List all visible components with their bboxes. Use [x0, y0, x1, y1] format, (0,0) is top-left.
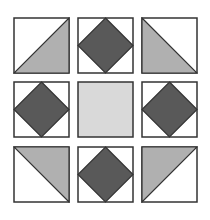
tile-diamond: [77, 146, 134, 203]
tile-half-triangle: [141, 146, 198, 203]
triangle-tile-icon: [141, 17, 198, 74]
diamond-tile-icon: [13, 81, 70, 138]
tile-diamond: [141, 81, 198, 138]
diamond-tile-icon: [77, 17, 134, 74]
tile-diamond: [13, 81, 70, 138]
diamond-tile-icon: [141, 81, 198, 138]
triangle-tile-icon: [13, 17, 70, 74]
triangle-tile-icon: [141, 146, 198, 203]
diamond-tile-icon: [77, 146, 134, 203]
triangle-tile-icon: [13, 146, 70, 203]
tile-half-triangle: [13, 146, 70, 203]
tile-diamond: [77, 17, 134, 74]
tile-half-triangle: [13, 17, 70, 74]
tile-half-triangle: [141, 17, 198, 74]
solid-square-tile-icon: [77, 81, 134, 138]
tile-solid-center: [77, 81, 134, 138]
